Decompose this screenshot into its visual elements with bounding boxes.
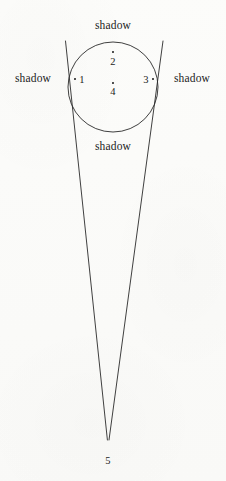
- label-number-4: 4: [110, 87, 115, 98]
- point-dot-4: [112, 82, 114, 84]
- point-dot-3: [152, 78, 154, 80]
- label-number-1: 1: [79, 75, 84, 86]
- label-shadow-left: shadow: [15, 73, 51, 85]
- label-shadow-top: shadow: [95, 20, 131, 32]
- label-number-3: 3: [143, 75, 148, 86]
- label-shadow-right: shadow: [174, 73, 210, 85]
- figure-canvas: shadow shadow shadow shadow 1 2 3 4 5: [0, 0, 226, 481]
- right-tangent-line: [109, 41, 163, 440]
- point-dot-1: [74, 78, 76, 80]
- label-number-5: 5: [105, 456, 110, 467]
- point-dot-2: [112, 51, 114, 53]
- left-tangent-line: [66, 41, 108, 440]
- label-number-2: 2: [110, 57, 115, 68]
- label-shadow-bottom: shadow: [95, 141, 131, 153]
